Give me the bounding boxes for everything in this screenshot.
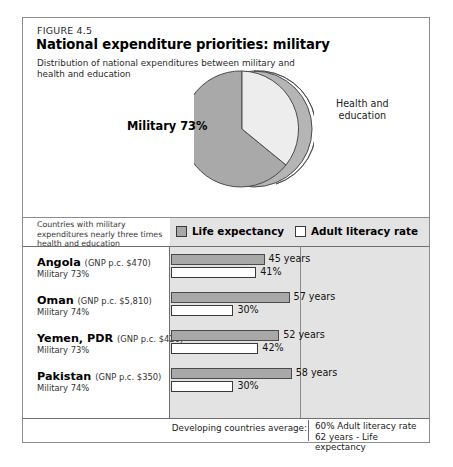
row-country-name: Yemen, PDR (GNP p.c. $420) (37, 332, 183, 345)
row-gnp-label: (GNP p.c. $350) (95, 372, 161, 382)
bar-life-expectancy (171, 368, 292, 379)
table-row: Yemen, PDR (GNP p.c. $420) Military 73% … (23, 326, 429, 363)
pie-label-health-education: Health and education (336, 98, 389, 122)
row-military-share: Military 73% (37, 269, 89, 279)
figure-frame: FIGURE 4.5 National expenditure prioriti… (22, 17, 430, 443)
footer-average-label: Developing countries average: (172, 423, 307, 433)
pie-label-military: Military 73% (127, 119, 207, 133)
row-military-share: Military 74% (37, 383, 89, 393)
bar-label-adult-literacy: 41% (260, 266, 281, 277)
bar-adult-literacy (171, 267, 256, 278)
bar-adult-literacy (171, 305, 233, 316)
bar-label-adult-literacy: 42% (262, 342, 283, 353)
row-country-label: Pakistan (37, 370, 91, 383)
row-military-share: Military 73% (37, 345, 89, 355)
figure-title: National expenditure priorities: militar… (36, 37, 330, 52)
bar-life-expectancy (171, 330, 279, 341)
figure-number: FIGURE 4.5 (37, 25, 92, 36)
bar-label-adult-literacy: 30% (237, 380, 258, 391)
bar-label-life-expectancy: 58 years (296, 367, 338, 378)
bar-label-life-expectancy: 52 years (283, 329, 325, 340)
row-military-share: Military 74% (37, 307, 89, 317)
table-row: Pakistan (GNP p.c. $350) Military 74% 58… (23, 364, 429, 401)
legend-swatch-filled-icon (176, 226, 187, 237)
footer-average-values: 60% Adult literacy rate 62 years - Life … (315, 421, 429, 453)
table-footer: Developing countries average: 60% Adult … (23, 419, 429, 443)
row-country-name: Oman (GNP p.c. $5,810) (37, 294, 152, 307)
pie-chart (194, 66, 314, 196)
legend-item-life-expectancy: Life expectancy (176, 225, 284, 237)
legend-label-adult-literacy: Adult literacy rate (311, 225, 418, 237)
row-country-label: Yemen, PDR (37, 332, 113, 345)
country-table-panel: Countries with military expenditures nea… (23, 217, 429, 443)
bar-label-life-expectancy: 45 years (269, 253, 311, 264)
bar-adult-literacy (171, 343, 258, 354)
chart-legend: Life expectancy Adult literacy rate (176, 225, 418, 237)
bar-life-expectancy (171, 292, 290, 303)
table-caption: Countries with military expenditures nea… (37, 220, 165, 249)
row-gnp-label: (GNP p.c. $470) (85, 258, 151, 268)
legend-label-life-expectancy: Life expectancy (192, 225, 284, 237)
row-country-name: Pakistan (GNP p.c. $350) (37, 370, 161, 383)
bar-life-expectancy (171, 254, 265, 265)
pie-chart-svg (194, 66, 314, 196)
bar-label-life-expectancy: 57 years (294, 291, 336, 302)
legend-item-adult-literacy: Adult literacy rate (295, 225, 418, 237)
legend-swatch-hollow-icon (295, 226, 306, 237)
table-row: Angola (GNP p.c. $470) Military 73% 45 y… (23, 250, 429, 287)
table-row: Oman (GNP p.c. $5,810) Military 74% 57 y… (23, 288, 429, 325)
row-country-label: Angola (37, 256, 81, 269)
row-country-label: Oman (37, 294, 74, 307)
bar-label-adult-literacy: 30% (237, 304, 258, 315)
row-gnp-label: (GNP p.c. $5,810) (78, 296, 152, 306)
row-country-name: Angola (GNP p.c. $470) (37, 256, 151, 269)
bar-adult-literacy (171, 381, 233, 392)
footer-vertical-divider (308, 420, 309, 441)
